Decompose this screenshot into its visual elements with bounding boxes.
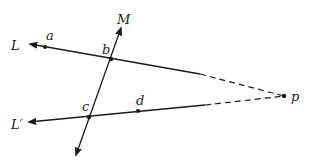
label-L: L	[10, 38, 20, 53]
label-M: M	[116, 12, 131, 27]
point-c	[87, 115, 91, 119]
point-a	[43, 45, 47, 49]
diagram-svg: L L′ M a b c d p	[0, 0, 311, 165]
label-c: c	[82, 99, 90, 114]
line-M	[76, 28, 121, 155]
geometry-diagram: L L′ M a b c d p	[0, 0, 311, 165]
line-L-prime	[29, 96, 284, 122]
line-L	[30, 44, 284, 96]
label-p: p	[291, 89, 300, 104]
label-L-prime: L′	[10, 117, 23, 132]
point-b	[109, 57, 113, 61]
label-a: a	[46, 28, 54, 43]
point-p	[282, 94, 286, 98]
label-d: d	[136, 93, 144, 108]
label-b: b	[102, 42, 110, 57]
point-d	[136, 109, 140, 113]
